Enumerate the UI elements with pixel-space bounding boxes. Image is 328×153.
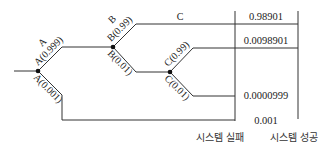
node-b-failure-label: B(0.01) (105, 48, 135, 78)
outcome-value-4: 0.001 (254, 115, 278, 126)
system-failure-label: 시스템 실패 (196, 132, 244, 143)
outcome-value-1: 0.98901 (249, 11, 283, 22)
event-tree-diagram: A A(0.999) A(0.001) B B(0.99) B(0.01) C … (0, 0, 328, 153)
outcome-value-3: 0.0000999 (244, 90, 289, 101)
system-success-label: 시스템 성공 (270, 132, 318, 143)
node-c-name: C (177, 11, 184, 22)
node-c-failure-label: C(0.01) (162, 73, 192, 103)
node-a-failure-label: A(0.001) (31, 72, 65, 106)
outcome-value-2: 0.0098901 (244, 35, 289, 46)
